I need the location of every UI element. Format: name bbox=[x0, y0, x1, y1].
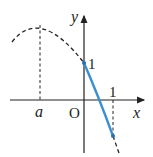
x-axis-label: x bbox=[132, 104, 140, 121]
parabola-dashed-left bbox=[12, 28, 84, 63]
x-tick-a: a bbox=[35, 103, 43, 120]
y-axis-label: y bbox=[69, 8, 79, 26]
x-tick-one: 1 bbox=[109, 84, 117, 100]
function-graph: y x O 1 1 a bbox=[0, 0, 153, 157]
parabola-dashed-right bbox=[113, 136, 119, 153]
segment-end-point bbox=[111, 134, 115, 138]
segment-start-point bbox=[82, 61, 86, 65]
y-tick-one: 1 bbox=[88, 56, 96, 72]
origin-label: O bbox=[69, 105, 80, 121]
